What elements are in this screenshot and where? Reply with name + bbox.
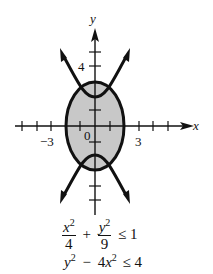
inequality-hyperbola: y2 − 4x2 ≤ 4: [64, 254, 142, 271]
variable-x: x: [63, 219, 70, 235]
inequality-ellipse: x2 4 + y2 9 ≤ 1: [62, 219, 138, 252]
y-axis-label: y: [88, 11, 96, 26]
variable-x: x: [105, 254, 112, 270]
plus-sign: +: [82, 226, 90, 242]
exponent: 2: [105, 217, 110, 228]
x-tick-label-3: 3: [135, 134, 142, 149]
denominator: 4: [62, 236, 76, 252]
x-tick-label-neg3: −3: [40, 134, 54, 149]
variable-y: y: [64, 254, 71, 270]
fraction-x-squared-over-4: x2 4: [62, 219, 76, 252]
y-tick-label-4: 4: [78, 59, 85, 74]
exponent: 2: [71, 252, 76, 263]
relation: ≤ 4: [123, 254, 142, 270]
relation: ≤ 1: [118, 226, 137, 242]
x-axis-label: x: [192, 118, 199, 133]
minus-sign: −: [82, 254, 90, 270]
fraction-y-squared-over-9: y2 9: [98, 219, 112, 252]
origin-label: 0: [84, 128, 91, 143]
denominator: 9: [98, 236, 112, 252]
exponent: 2: [112, 252, 117, 263]
exponent: 2: [70, 217, 75, 228]
